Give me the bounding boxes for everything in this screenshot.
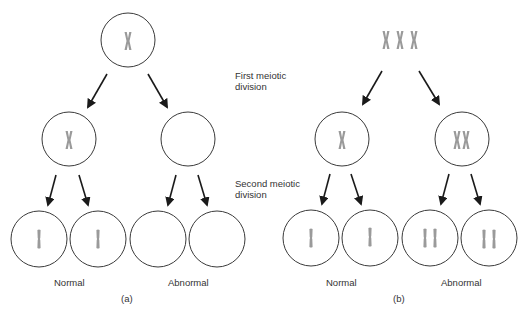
- x-chromosome-icon: [397, 31, 404, 49]
- second-meiotic-division-label: Second meiotic division: [235, 178, 300, 200]
- panel-b: [283, 31, 517, 266]
- gamete-a4-empty: [189, 211, 245, 267]
- arrow-icon: [88, 74, 107, 107]
- arrow-icon: [322, 174, 330, 204]
- first-division-cell-b2: [435, 112, 489, 166]
- label-line: Second meiotic: [235, 178, 300, 189]
- arrow-icon: [148, 74, 167, 107]
- arrow-icon: [168, 175, 176, 205]
- label-line: First meiotic: [235, 70, 286, 81]
- gamete-b3: [402, 210, 458, 266]
- x-chromosome-icon: [383, 31, 390, 49]
- arrow-icon: [198, 175, 207, 205]
- panel-caption-a: (a): [121, 293, 133, 304]
- first-division-cell-a2-empty: [161, 112, 215, 166]
- arrow-icon: [471, 174, 480, 204]
- first-meiotic-division-label: First meiotic division: [235, 70, 286, 92]
- normal-label-a: Normal: [54, 277, 85, 288]
- panel-caption-b: (b): [393, 293, 405, 304]
- abnormal-label-a: Abnormal: [168, 277, 209, 288]
- abnormal-label-b: Abnormal: [441, 277, 482, 288]
- meiosis-diagram: [0, 0, 532, 313]
- arrow-icon: [441, 174, 449, 204]
- panel-a: [11, 13, 245, 267]
- arrow-icon: [79, 175, 88, 205]
- gamete-a3-empty: [130, 211, 186, 267]
- arrow-icon: [419, 71, 439, 104]
- arrow-icon: [351, 174, 361, 204]
- label-line: division: [235, 81, 286, 92]
- arrow-icon: [48, 175, 56, 205]
- arrow-icon: [363, 71, 382, 104]
- normal-label-b: Normal: [326, 277, 357, 288]
- gamete-b4: [461, 210, 517, 266]
- label-line: division: [235, 189, 300, 200]
- x-chromosome-icon: [411, 31, 418, 49]
